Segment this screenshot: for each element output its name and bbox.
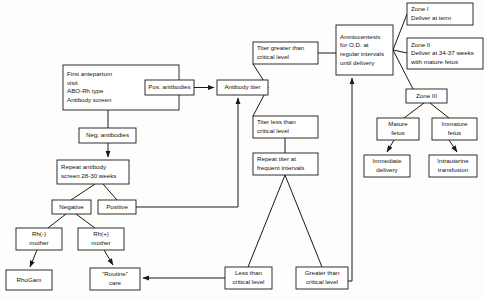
flow-node-label-rhogam: RhoGam (17, 276, 42, 283)
flow-node-label-greater_than_critical: critical level (306, 278, 338, 285)
flow-node-label-antibody_titer: Antibody titer (224, 83, 260, 90)
flow-node-label-repeat_titer: frequent intervals (257, 164, 304, 171)
flow-node-label-immature_fetus: fetus (448, 129, 461, 136)
flow-node-label-amniocentesis: until delivery (340, 59, 375, 66)
flow-edge-rhneg-to-rhogam (30, 250, 37, 267)
flow-node-label-rh_neg_mother: Rh(-) (32, 230, 46, 237)
flowchart-canvas: First antepartumvisitABO-Rh typeAntibody… (0, 0, 484, 299)
flow-node-label-amniocentesis: regular intervals (340, 50, 384, 57)
flow-edge-repeat-to-negative (71, 184, 95, 200)
flow-node-label-rh_pos_mother: mother (91, 239, 110, 246)
flow-node-immediate_delivery: Immediatedelivery (364, 155, 410, 177)
flow-node-repeat_screen: Repeat antibodyscreen 28-30 weeks (57, 160, 129, 184)
flow-node-rh_pos_mother: Rh(+)mother (78, 228, 124, 250)
flow-node-label-amniocentesis: Amniocentesis (340, 33, 380, 40)
flow-node-label-neg_antibodies: Neg. antibodies (86, 131, 129, 138)
flow-node-label-titer_less: critical level (257, 127, 289, 134)
flow-edge-greater-crit-to-amnio (348, 78, 352, 281)
flow-node-label-immediate_delivery: Immediate (373, 157, 402, 164)
flow-node-repeat_titer: Repeat titer atfrequent intervals (253, 153, 318, 175)
flow-node-label-less_than_critical: critical level (233, 278, 265, 285)
flow-node-label-zone_ii: Deliver at 34-37 weeks (411, 49, 474, 56)
flow-node-label-repeat_screen: screen 28-30 weeks (61, 172, 116, 179)
flow-node-label-immature_fetus: Immature (441, 120, 468, 127)
flow-node-greater_than_critical: Greater thancritical level (296, 267, 348, 289)
flow-node-label-zone_i: Zone I (411, 5, 429, 12)
flow-node-intrauterine_transfusion: Intrauterinetransfusion (429, 155, 477, 177)
flow-node-label-routine_care: "Routine" (102, 270, 128, 277)
flow-node-zone_iii: Zone III (406, 89, 447, 103)
flow-node-label-rh_pos_mother: Rh(+) (93, 230, 109, 237)
flow-node-label-zone_i: Deliver at term (411, 14, 451, 21)
flow-node-routine_care: "Routine"care (90, 268, 140, 290)
flow-node-label-first_visit: Antibody screen (67, 96, 112, 103)
flow-node-zone_i: Zone I Deliver at term (407, 3, 473, 25)
flow-edge-amnio-to-zone1 (393, 14, 407, 50)
flow-node-label-intrauterine_transfusion: transfusion (438, 166, 469, 173)
flow-node-rh_neg_mother: Rh(-)mother (16, 228, 62, 250)
flow-edge-repeat-to-positive (103, 184, 117, 200)
flow-node-label-mature_fetus: Mature (388, 120, 408, 127)
flow-node-immature_fetus: Immaturefetus (432, 118, 477, 140)
flow-edge-zone3-to-mature (404, 103, 424, 118)
flow-edge-repeat-titer-to-less-crit (248, 175, 285, 267)
flow-edge-repeat-titer-to-greater-crit (285, 175, 322, 267)
flow-node-label-first_visit: First antepartum (67, 70, 112, 77)
flow-node-pos_antibodies: Pos. antibodies (145, 80, 194, 95)
flow-node-label-rh_neg_mother: mother (29, 239, 48, 246)
flow-node-titer_greater: Titer greater thancritical level (253, 42, 318, 64)
flow-edge-rhpos-to-routine (104, 250, 113, 265)
flow-edge-zone3-to-immature (430, 103, 449, 118)
flow-edge-immature-to-transfusion (449, 140, 457, 152)
flow-edge-negative-to-rhneg (48, 214, 66, 228)
flow-node-label-zone_iii: Zone III (416, 92, 437, 99)
flow-node-mature_fetus: Maturefetus (377, 118, 419, 140)
flow-node-less_than_critical: Less thancritical level (225, 267, 272, 289)
flow-node-label-titer_greater: Titer greater than (257, 44, 305, 51)
flow-edge-negative-to-rhpos (76, 214, 95, 228)
flow-node-label-negative: Negative (59, 203, 84, 210)
flow-node-positive: Positive (98, 200, 136, 214)
flow-node-label-greater_than_critical: Greater than (305, 269, 340, 276)
flow-node-label-amniocentesis: for O.D. at (340, 41, 369, 48)
flow-node-label-titer_greater: critical level (257, 53, 289, 60)
flow-node-label-routine_care: care (109, 279, 122, 286)
flow-node-label-pos_antibodies: Pos. antibodies (148, 83, 190, 90)
flow-node-label-first_visit: visit (67, 79, 78, 86)
flow-edge-positive-to-titer (136, 98, 238, 207)
flow-node-label-repeat_titer: Repeat titer at (257, 155, 296, 162)
flowchart-svg: First antepartumvisitABO-Rh typeAntibody… (0, 0, 484, 299)
flow-node-rhogam: RhoGam (6, 270, 52, 290)
flow-node-zone_ii: Zone IIDeliver at 34-37 weekswith mature… (407, 38, 483, 69)
flow-node-label-intrauterine_transfusion: Intrauterine (437, 157, 469, 164)
flow-node-label-first_visit: ABO-Rh type (67, 87, 104, 94)
flow-node-label-positive: Positive (106, 203, 128, 210)
flow-edge-amnio-to-zone2 (393, 50, 407, 53)
flow-node-label-zone_ii: Zone II (411, 41, 431, 48)
flow-node-label-immediate_delivery: delivery (376, 166, 398, 173)
node-layer: First antepartumvisitABO-Rh typeAntibody… (6, 3, 483, 290)
flow-node-neg_antibodies: Neg. antibodies (79, 128, 136, 143)
flow-node-label-mature_fetus: fetus (391, 129, 404, 136)
flow-node-label-zone_ii: with mature fetus (410, 58, 458, 65)
flow-node-antibody_titer: Antibody titer (217, 80, 268, 95)
flow-node-label-repeat_screen: Repeat antibody (61, 163, 107, 170)
flow-node-negative: Negative (52, 200, 91, 214)
flow-edge-mature-to-immediate (387, 140, 394, 152)
flow-node-label-less_than_critical: Less than (235, 269, 262, 276)
flow-node-titer_less: Titer less thancritical level (253, 116, 318, 138)
flow-node-label-titer_less: Titer less than (257, 118, 296, 125)
flow-node-amniocentesis: Amniocentesisfor O.D. atregular interval… (336, 25, 393, 75)
